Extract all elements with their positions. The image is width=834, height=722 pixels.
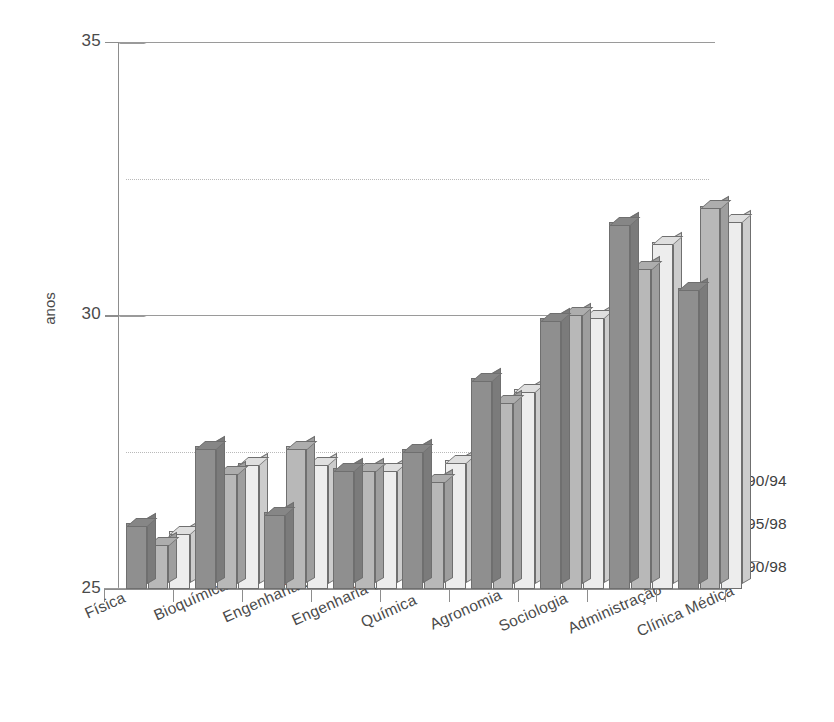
bar-side-face: [630, 212, 639, 583]
bar-side-face: [513, 390, 522, 584]
bar: [471, 378, 492, 588]
bar-front-face: [195, 446, 216, 588]
legend-label: 90/94: [747, 472, 787, 490]
x-tick-3: [311, 589, 312, 602]
bar-chart: anos 253035 FísicaBioquímicaEngenharia E…: [0, 0, 834, 722]
bar-side-face: [651, 256, 660, 584]
x-tick-end: [725, 589, 726, 602]
bar-side-face: [216, 436, 225, 583]
bar-front-face: [264, 512, 285, 589]
bar: [264, 512, 285, 589]
bar-side-face: [444, 469, 453, 584]
bar: [402, 449, 423, 588]
bar-side-face: [561, 308, 570, 584]
x-tick-6: [518, 589, 519, 602]
bar-side-face: [237, 461, 246, 584]
bar: [540, 318, 561, 589]
bar: [333, 468, 354, 588]
bar-front-face: [540, 318, 561, 589]
legend-label: 90/98: [747, 558, 787, 576]
bar: [195, 446, 216, 588]
bar-side-face: [492, 368, 501, 584]
bar-side-face: [582, 302, 591, 583]
bar-side-face: [699, 278, 708, 584]
bar-front-face: [126, 523, 147, 589]
bars-layer: [0, 0, 834, 722]
bar: [126, 523, 147, 589]
bar-front-face: [609, 222, 630, 588]
bar-side-face: [354, 458, 363, 583]
x-tick-5: [449, 589, 450, 602]
bar-front-face: [402, 449, 423, 588]
bar-front-face: [333, 468, 354, 588]
bar-side-face: [375, 458, 384, 583]
x-tick-7: [587, 589, 588, 602]
bar-side-face: [306, 436, 315, 583]
x-tick-8: [656, 589, 657, 602]
bar-front-face: [678, 288, 699, 589]
x-tick-4: [380, 589, 381, 602]
bar-front-face: [471, 378, 492, 588]
bar-side-face: [742, 209, 751, 583]
legend-label: 95/98: [747, 515, 787, 533]
bar-side-face: [720, 196, 729, 584]
bar: [678, 288, 699, 589]
bar-side-face: [423, 439, 432, 584]
bar: [609, 222, 630, 588]
